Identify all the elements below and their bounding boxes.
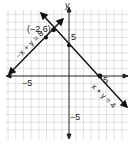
y-axis-label: y: [65, 0, 70, 10]
x-tick-5: 5: [103, 75, 108, 85]
x-tick-neg5: −5: [22, 78, 32, 88]
axes: [6, 7, 128, 139]
y-tick-5: 5: [71, 32, 76, 42]
grid: [5, 10, 128, 140]
y-tick-neg5: −5: [70, 112, 80, 122]
coordinate-plane: [0, 0, 135, 146]
